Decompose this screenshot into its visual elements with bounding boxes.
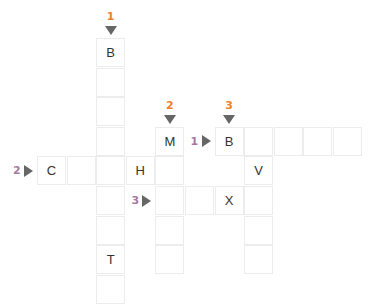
- crossword-cell[interactable]: X: [215, 186, 244, 215]
- crossword-cell[interactable]: B: [215, 127, 244, 156]
- down-clue-number: 1: [96, 10, 125, 23]
- crossword-cell[interactable]: [155, 216, 184, 245]
- crossword-cell[interactable]: C: [37, 156, 66, 185]
- crossword-cell[interactable]: [67, 156, 96, 185]
- crossword-cell[interactable]: [96, 216, 125, 245]
- crossword-cell[interactable]: [274, 127, 303, 156]
- crossword-cell[interactable]: T: [96, 245, 125, 274]
- down-clue-number: 3: [215, 99, 244, 112]
- crossword-cell[interactable]: H: [126, 156, 155, 185]
- crossword-cell[interactable]: B: [96, 38, 125, 67]
- crossword-cell[interactable]: [96, 68, 125, 97]
- down-arrow-icon: [223, 115, 235, 124]
- across-clue-number: 1: [191, 135, 199, 148]
- crossword-cell[interactable]: [244, 245, 273, 274]
- across-clue-number: 2: [13, 164, 21, 177]
- across-clue-number: 3: [131, 194, 139, 207]
- across-arrow-icon: [142, 195, 151, 207]
- crossword-cell[interactable]: [244, 127, 273, 156]
- crossword-cell[interactable]: [185, 186, 214, 215]
- crossword-cell[interactable]: [96, 156, 125, 185]
- down-clue-number: 2: [155, 99, 184, 112]
- crossword-cell[interactable]: [155, 156, 184, 185]
- crossword-cell[interactable]: [244, 216, 273, 245]
- crossword-cell[interactable]: [155, 245, 184, 274]
- crossword-cell[interactable]: [244, 186, 273, 215]
- crossword-cell[interactable]: [96, 97, 125, 126]
- across-arrow-icon: [24, 165, 33, 177]
- crossword-cell[interactable]: [96, 127, 125, 156]
- crossword-cell[interactable]: [303, 127, 332, 156]
- crossword-cell[interactable]: V: [244, 156, 273, 185]
- crossword-cell[interactable]: [96, 275, 125, 304]
- crossword-cell[interactable]: [155, 186, 184, 215]
- crossword-cell[interactable]: [96, 186, 125, 215]
- down-arrow-icon: [105, 26, 117, 35]
- across-arrow-icon: [202, 135, 211, 147]
- crossword-cell[interactable]: [333, 127, 362, 156]
- down-arrow-icon: [164, 115, 176, 124]
- crossword-cell[interactable]: M: [155, 127, 184, 156]
